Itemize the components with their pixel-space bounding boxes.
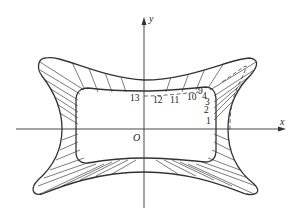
point-label-13: 13 xyxy=(130,94,140,104)
diagram-canvas: y x O 1 2 3 4 9 10 11 12 13 xyxy=(0,0,296,220)
diagram-svg xyxy=(0,0,296,220)
point-label-10: 10 xyxy=(187,93,197,103)
hatching xyxy=(38,58,256,194)
origin-label: O xyxy=(133,133,140,143)
point-label-12: 12 xyxy=(153,96,163,106)
x-axis-label: x xyxy=(280,117,284,127)
point-label-1: 1 xyxy=(206,117,211,127)
x-axis-arrow-icon xyxy=(278,127,286,132)
point-label-9: 9 xyxy=(198,87,203,97)
point-label-11: 11 xyxy=(170,96,179,106)
y-axis-arrow-icon xyxy=(142,17,147,25)
y-axis-label: y xyxy=(149,14,153,24)
